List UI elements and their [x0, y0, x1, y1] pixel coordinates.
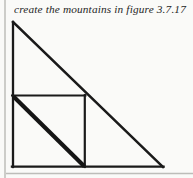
square-thick-diagonal: [14, 97, 85, 167]
figure-caption: create the mountains in figure 3.7.17: [14, 1, 193, 18]
figure-page: create the mountains in figure 3.7.17: [0, 0, 193, 178]
figure-canvas: [0, 0, 193, 178]
